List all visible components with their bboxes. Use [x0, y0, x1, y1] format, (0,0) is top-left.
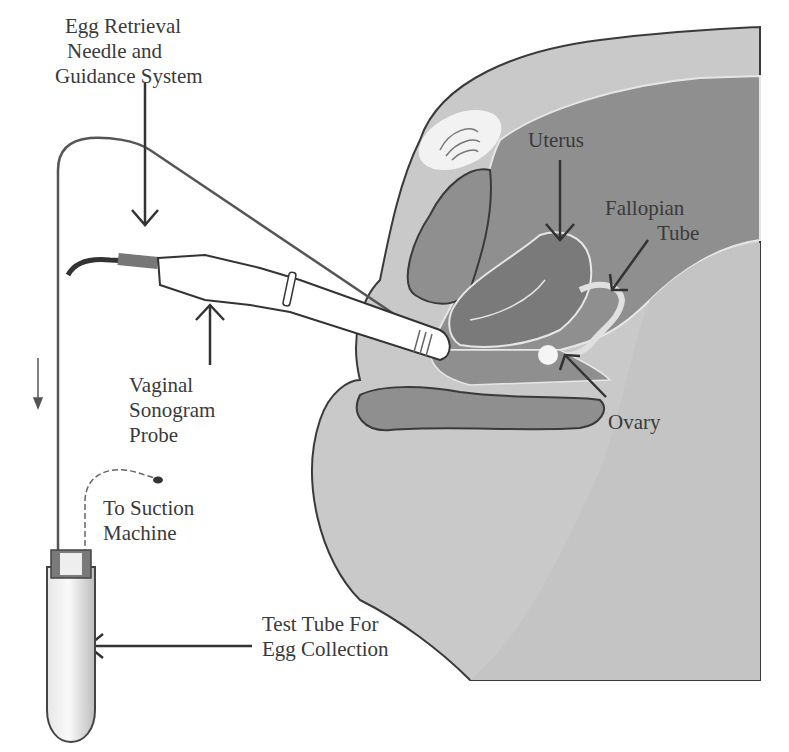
egg-retrieval-illustration — [0, 0, 789, 752]
body-cross-section — [312, 27, 760, 680]
test-tube-line-2: Egg Collection — [262, 637, 389, 662]
suction-line-2: Machine — [103, 521, 194, 546]
probe-line-3: Probe — [129, 423, 215, 448]
fallopian-line-2: Tube — [605, 221, 699, 246]
label-uterus: Uterus — [528, 128, 584, 153]
probe-line-2: Sonogram — [129, 398, 215, 423]
label-vaginal-sonogram-probe: Vaginal Sonogram Probe — [129, 373, 215, 448]
probe-line-1: Vaginal — [129, 373, 215, 398]
needle-line-3: Guidance System — [55, 64, 203, 89]
label-egg-retrieval-needle: Egg Retrieval Needle and Guidance System — [55, 14, 203, 89]
ovary-follicle — [538, 345, 558, 365]
label-ovary: Ovary — [608, 410, 660, 435]
arrow-test-tube — [88, 634, 252, 658]
cable-strain-relief — [117, 253, 158, 269]
needle-line-1: Egg Retrieval — [55, 14, 203, 39]
figure-caption-clipped — [0, 738, 789, 752]
arrow-flow-down — [34, 358, 42, 408]
fallopian-line-1: Fallopian — [605, 196, 699, 221]
suction-line-1: To Suction — [103, 496, 194, 521]
label-to-suction-machine: To Suction Machine — [103, 496, 194, 546]
label-test-tube: Test Tube For Egg Collection — [262, 612, 389, 662]
needle-line-2: Needle and — [55, 39, 203, 64]
ovary-text: Ovary — [608, 410, 660, 435]
label-fallopian-tube: Fallopian Tube — [605, 196, 699, 246]
uterus-text: Uterus — [528, 128, 584, 153]
arrow-probe — [196, 305, 224, 365]
test-tube — [47, 550, 95, 742]
test-tube-line-1: Test Tube For — [262, 612, 389, 637]
